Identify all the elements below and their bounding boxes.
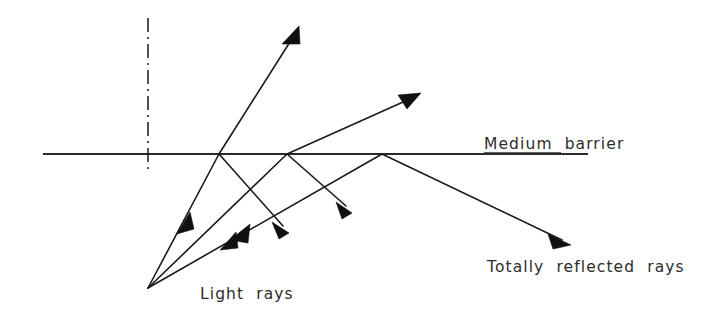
reflected-ray-1-arrowhead — [272, 222, 289, 239]
optics-diagram: Medium barrier Light rays Totally reflec… — [0, 0, 726, 315]
reflected-ray-1 — [219, 154, 283, 226]
incident-ray-1-arrowhead — [177, 212, 194, 234]
refracted-ray-1 — [219, 34, 295, 154]
refracted-ray-2 — [287, 98, 412, 154]
refracted-ray-2-arrowhead — [398, 93, 421, 109]
diagram-canvas: Medium barrier Light rays Totally reflec… — [0, 0, 726, 315]
light-rays-label: Light rays — [200, 285, 294, 303]
refracted-ray-1-arrowhead — [282, 26, 300, 44]
totally-reflected-ray-arrowhead — [548, 234, 571, 249]
totally-reflected-ray — [382, 154, 562, 240]
totally-reflected-rays-label: Totally reflected rays — [486, 258, 685, 276]
medium-barrier-label: Medium barrier — [484, 135, 624, 153]
incident-ray-3-arrowhead — [230, 224, 250, 243]
